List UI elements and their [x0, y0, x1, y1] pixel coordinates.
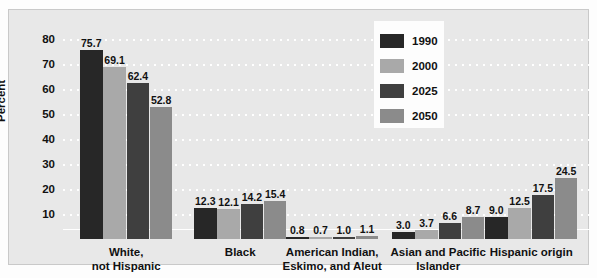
- y-tick-label: 10: [9, 208, 55, 220]
- legend-swatch: [380, 59, 404, 73]
- bar-value-label: 62.4: [122, 71, 155, 82]
- plot-area: 75.769.162.452.812.312.114.215.40.80.71.…: [63, 27, 590, 239]
- bar[interactable]: [217, 209, 240, 239]
- gridline: [63, 39, 590, 41]
- y-axis-label: Percent: [0, 80, 7, 122]
- y-tick-label: 20: [9, 183, 55, 195]
- y-tick-label: 70: [9, 58, 55, 70]
- bar-value-label: 1.1: [351, 224, 384, 235]
- legend-swatch: [380, 109, 404, 123]
- category-label-line: not Hispanic: [36, 260, 216, 274]
- chart-figure: Percent 1020304050607080 75.769.162.452.…: [0, 0, 597, 278]
- bar[interactable]: [532, 195, 555, 239]
- y-tick-label: 60: [9, 83, 55, 95]
- y-tick-label: 80: [9, 33, 55, 45]
- chart-panel: Percent 1020304050607080 75.769.162.452.…: [8, 9, 589, 265]
- category-label-line: Hispanic origin: [441, 246, 597, 260]
- bar[interactable]: [241, 204, 264, 239]
- legend-label: 2000: [412, 59, 438, 73]
- bar-value-label: 15.4: [259, 189, 292, 200]
- bar-value-label: 69.1: [98, 55, 131, 66]
- bar[interactable]: [555, 178, 578, 239]
- gridline: [63, 64, 590, 66]
- bar[interactable]: [150, 107, 173, 239]
- legend-label: 1990: [412, 34, 438, 48]
- bar[interactable]: [415, 230, 438, 239]
- bar[interactable]: [439, 223, 462, 239]
- bar-value-label: 75.7: [75, 38, 108, 49]
- legend-swatch: [380, 84, 404, 98]
- bar[interactable]: [194, 208, 217, 239]
- category-label: Hispanic origin: [441, 246, 597, 260]
- bar[interactable]: [103, 67, 126, 239]
- y-tick-label: 50: [9, 108, 55, 120]
- chart-legend: 1990200020252050: [374, 21, 444, 128]
- bar[interactable]: [333, 237, 356, 240]
- bar[interactable]: [309, 237, 332, 240]
- bar[interactable]: [485, 217, 508, 239]
- bar[interactable]: [508, 208, 531, 239]
- bar[interactable]: [286, 237, 309, 240]
- legend-label: 2050: [412, 109, 438, 123]
- legend-swatch: [380, 34, 404, 48]
- bar[interactable]: [392, 232, 415, 239]
- y-tick-label: 30: [9, 158, 55, 170]
- legend-label: 2025: [412, 84, 438, 98]
- bar[interactable]: [127, 83, 150, 239]
- category-label-line: Islander: [348, 260, 528, 274]
- y-tick-label: 40: [9, 133, 55, 145]
- bar[interactable]: [462, 217, 485, 239]
- bar[interactable]: [356, 236, 379, 239]
- bar[interactable]: [80, 50, 103, 239]
- bar-value-label: 24.5: [550, 166, 583, 177]
- bar-value-label: 52.8: [145, 95, 178, 106]
